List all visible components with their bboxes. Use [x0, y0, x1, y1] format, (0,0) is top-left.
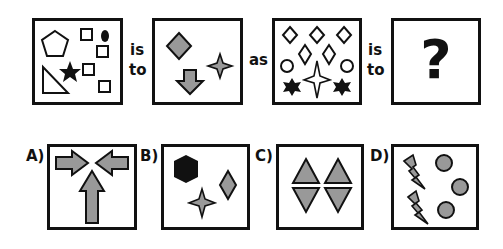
black-ellipse-shape — [101, 30, 109, 42]
up-arrow-shape — [80, 171, 104, 223]
down-triangle-shape — [293, 188, 319, 212]
black-hexagon-shape — [174, 155, 198, 183]
connector-is: is — [130, 43, 144, 58]
left-arrow-shape — [96, 151, 128, 175]
question-box-3 — [272, 18, 362, 105]
down-arrow-shape — [177, 70, 203, 94]
diamond-shape — [220, 171, 236, 199]
circle-shape — [341, 60, 353, 72]
box-1-shapes — [35, 21, 120, 102]
four-point-star-shape — [208, 54, 232, 78]
diamond-shape — [299, 45, 311, 64]
black-star-shape — [333, 78, 351, 96]
diamond-shape — [337, 27, 351, 43]
option-d-shapes — [394, 147, 476, 227]
down-triangle-shape — [325, 188, 351, 212]
lightning-bolt-shape — [408, 191, 428, 224]
square-shape — [97, 46, 108, 57]
question-mark: ? — [394, 33, 478, 87]
connector-to: to — [129, 63, 146, 78]
option-b-box[interactable] — [161, 144, 250, 230]
circle-shape — [436, 155, 452, 171]
option-a-shapes — [50, 147, 134, 227]
option-c-shapes — [279, 147, 361, 227]
box-3-shapes — [275, 21, 359, 102]
option-d-box[interactable] — [391, 144, 479, 230]
option-d-label: D) — [370, 149, 389, 164]
up-triangle-shape — [325, 159, 351, 183]
pentagon-shape — [42, 31, 68, 56]
four-point-star-shape — [304, 61, 330, 98]
option-b-shapes — [164, 147, 247, 227]
circle-shape — [281, 60, 293, 72]
square-shape — [81, 29, 92, 40]
option-c-label: C) — [255, 149, 273, 164]
question-box-1 — [32, 18, 123, 105]
square-shape — [99, 81, 110, 92]
diamond-shape — [323, 45, 335, 64]
right-arrow-shape — [56, 151, 88, 175]
connector-is-2: is — [368, 43, 382, 58]
question-box-unknown: ? — [391, 18, 481, 105]
up-triangle-shape — [293, 159, 319, 183]
star-shape — [59, 61, 81, 82]
lightning-bolt-shape — [404, 155, 425, 189]
option-a-box[interactable] — [47, 144, 137, 230]
black-star-shape — [283, 78, 301, 96]
option-b-label: B) — [140, 149, 158, 164]
diamond-shape — [310, 27, 324, 43]
option-c-box[interactable] — [276, 144, 364, 230]
circle-shape — [452, 179, 468, 195]
four-point-star-shape — [189, 189, 215, 217]
square-shape — [83, 64, 94, 75]
box-2-shapes — [155, 21, 240, 102]
diamond-shape — [283, 27, 297, 43]
diamond-shape — [167, 33, 191, 59]
connector-as: as — [249, 53, 268, 68]
question-box-2 — [152, 18, 243, 105]
connector-to-2: to — [367, 63, 384, 78]
circle-shape — [438, 202, 454, 218]
option-a-label: A) — [26, 149, 44, 164]
